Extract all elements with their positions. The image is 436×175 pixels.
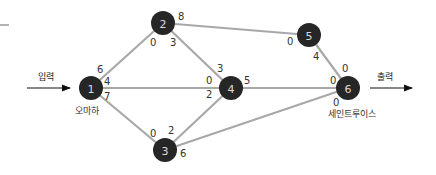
svg-text:2: 2	[160, 18, 167, 31]
edge-3-6	[165, 88, 348, 150]
node-2: 2	[151, 11, 175, 35]
node-3: 3	[153, 138, 177, 162]
cap-3-6: 6	[180, 148, 186, 159]
cap-3-1: 0	[150, 128, 156, 139]
node-5: 5	[297, 23, 321, 47]
node-4: 4	[219, 76, 243, 100]
cap-5-2: 0	[287, 36, 293, 47]
edge-1-2	[91, 23, 163, 88]
node-1-caption: 오마하	[75, 106, 100, 116]
svg-text:1: 1	[88, 83, 95, 96]
cap-4-3: 2	[206, 89, 212, 100]
cap-4-6: 5	[244, 75, 250, 86]
svg-text:5: 5	[306, 30, 313, 43]
cap-2-4: 3	[170, 37, 176, 48]
edge-1-3	[91, 88, 165, 150]
output-label: 출력	[377, 71, 393, 82]
svg-text:6: 6	[345, 83, 352, 96]
edge-2-5	[163, 23, 309, 35]
cap-3-4: 2	[168, 125, 174, 136]
cap-6-5: 0	[342, 63, 348, 74]
svg-text:3: 3	[162, 145, 169, 158]
cap-1-2: 6	[97, 64, 103, 75]
edge-2-4	[163, 23, 231, 88]
edge-3-4	[165, 88, 231, 150]
node-1: 1	[79, 76, 103, 100]
cap-6-4: 0	[330, 75, 336, 86]
cap-4-2: 3	[217, 63, 223, 74]
cap-6-3: 0	[333, 97, 339, 108]
cap-1-3: 7	[104, 91, 110, 102]
svg-text:4: 4	[228, 83, 235, 96]
cap-2-5: 8	[178, 11, 184, 22]
node-6-caption: 세인트루이스	[328, 109, 376, 119]
cap-1-4: 4	[104, 76, 110, 87]
node-6: 6	[336, 76, 360, 100]
cap-2-1: 0	[150, 37, 156, 48]
input-label: 입력	[38, 71, 54, 82]
network-diagram: 입력 출력 6 4 7 0 3 8 3 0 2 5 0 2 6 0 4 0 0 …	[0, 0, 436, 175]
cap-5-6: 4	[313, 51, 319, 62]
cap-4-1: 0	[206, 75, 212, 86]
